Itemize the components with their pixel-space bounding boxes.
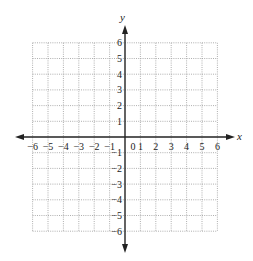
- x-axis-label: x: [236, 130, 242, 142]
- x-tick-label: 4: [184, 141, 189, 152]
- coordinate-grid-chart: x y −6−5−4−3−2−10123456 654321−1−2−3−4−5…: [0, 0, 253, 261]
- y-tick-label: 4: [117, 69, 122, 80]
- x-tick-label: 1: [138, 141, 143, 152]
- x-tick-label: 0: [131, 141, 136, 152]
- axes: x y: [15, 11, 242, 253]
- y-axis-label: y: [119, 11, 125, 23]
- x-axis-right-arrow-icon: [226, 134, 235, 140]
- x-tick-label: −4: [58, 141, 69, 152]
- y-axis-up-arrow-icon: [122, 25, 128, 34]
- y-axis-down-arrow-icon: [122, 244, 128, 253]
- x-tick-label: −5: [43, 141, 54, 152]
- y-tick-label: 6: [117, 37, 122, 48]
- x-tick-label: −3: [73, 141, 84, 152]
- y-tick-label: 5: [117, 53, 122, 64]
- x-tick-label: −6: [27, 141, 38, 152]
- x-tick-labels: −6−5−4−3−2−10123456: [27, 141, 220, 152]
- y-tick-label: −5: [111, 210, 122, 221]
- x-tick-label: 3: [169, 141, 174, 152]
- y-tick-label: −1: [111, 147, 122, 158]
- y-tick-label: 1: [117, 116, 122, 127]
- x-axis-left-arrow-icon: [15, 134, 24, 140]
- y-tick-label: −3: [111, 179, 122, 190]
- y-tick-label: −4: [111, 194, 122, 205]
- x-tick-label: −2: [89, 141, 100, 152]
- y-tick-label: −6: [111, 226, 122, 237]
- x-tick-label: 6: [215, 141, 220, 152]
- x-tick-label: 5: [200, 141, 205, 152]
- y-tick-label: 3: [117, 84, 122, 95]
- y-tick-label: 2: [117, 100, 122, 111]
- y-tick-label: −2: [111, 163, 122, 174]
- x-tick-label: 2: [153, 141, 158, 152]
